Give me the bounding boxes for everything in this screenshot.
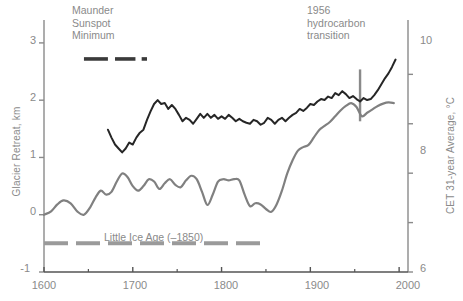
chart-figure: Glacier Retreat, km CET 31-year Average,… xyxy=(0,0,463,301)
data-series xyxy=(44,60,396,215)
plot-area xyxy=(0,0,463,301)
annotation-markers xyxy=(44,59,360,243)
series-line-right xyxy=(108,60,396,153)
